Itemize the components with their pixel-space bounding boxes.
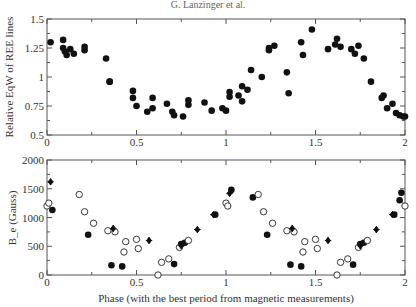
data-point	[350, 261, 357, 268]
data-point	[302, 238, 308, 244]
y-tick-label: 1	[39, 71, 45, 83]
data-point	[225, 203, 231, 209]
figure-title: G. Lanzinger et al.	[171, 0, 246, 10]
data-point	[106, 78, 113, 85]
data-point	[337, 44, 344, 51]
y-tick-label: 1.25	[25, 42, 45, 54]
data-point	[355, 42, 362, 49]
x-tick-label: 1	[223, 276, 229, 288]
data-point	[334, 272, 340, 278]
x-tick-label: 1.5	[309, 276, 323, 288]
data-point	[121, 249, 127, 255]
y-tick-label: 0.75	[25, 100, 45, 112]
data-point	[325, 237, 331, 243]
data-point	[149, 95, 156, 102]
bottom-plot-frame	[47, 160, 405, 275]
data-point	[248, 67, 255, 74]
y-tick-label: 0.5	[30, 129, 44, 141]
data-point	[133, 103, 140, 110]
data-point	[133, 236, 139, 242]
data-point	[373, 226, 379, 232]
data-point	[155, 272, 161, 278]
bottom-axis-ticks: 00.511.520500100015002000	[22, 154, 408, 288]
x-tick-label: 2	[402, 136, 408, 148]
data-point	[103, 55, 110, 62]
x-axis-label: Phase (with the best period from magneti…	[98, 292, 354, 305]
top-y-axis-label: Relative EqW of REE lines	[3, 17, 15, 138]
data-point	[60, 37, 67, 44]
data-point	[223, 107, 230, 114]
data-point	[287, 261, 294, 268]
data-point	[361, 55, 368, 62]
data-point	[271, 42, 278, 49]
data-point	[166, 256, 172, 262]
data-point	[235, 92, 242, 99]
y-tick-label: 1.5	[30, 13, 44, 25]
bottom-y-axis-label: B_e (Gauss)	[6, 190, 19, 245]
x-tick-label: 0	[44, 276, 50, 288]
data-point	[398, 189, 405, 196]
data-point	[85, 231, 92, 238]
data-point	[345, 256, 351, 262]
data-point	[298, 39, 305, 46]
data-point	[312, 236, 318, 242]
data-point	[194, 226, 200, 232]
data-point	[309, 26, 316, 33]
x-tick-label: 1	[223, 136, 229, 148]
data-point	[368, 78, 375, 85]
data-point	[402, 113, 409, 120]
data-point	[255, 191, 261, 197]
data-point	[264, 231, 271, 238]
data-point	[123, 238, 129, 244]
data-point	[63, 52, 70, 59]
data-point	[208, 107, 215, 114]
data-point	[171, 112, 178, 119]
data-point	[380, 92, 387, 99]
data-point	[284, 69, 291, 76]
data-point	[164, 100, 171, 107]
data-point	[76, 191, 82, 197]
x-tick-label: 2	[402, 276, 408, 288]
top-panel: 00.511.520.50.7511.251.5 Relative EqW of…	[3, 13, 408, 148]
y-tick-label: 0	[39, 269, 45, 281]
data-point	[130, 95, 137, 102]
data-point	[149, 105, 156, 112]
data-point	[81, 209, 87, 215]
data-point	[337, 259, 343, 265]
data-point	[146, 237, 152, 243]
top-axis-ticks: 00.511.520.50.7511.251.5	[25, 13, 408, 148]
data-point	[201, 99, 208, 106]
data-point	[389, 100, 396, 107]
top-plot-frame	[47, 19, 405, 135]
data-point	[364, 237, 370, 243]
data-point	[71, 51, 78, 58]
bottom-panel: 00.511.520500100015002000 B_e (Gauss) Ph…	[6, 154, 408, 305]
data-point	[352, 51, 359, 58]
data-point	[171, 261, 178, 268]
data-point	[260, 209, 266, 215]
data-point	[108, 262, 115, 269]
data-point	[119, 263, 126, 270]
data-point	[269, 220, 275, 226]
data-point	[285, 90, 292, 97]
data-point	[90, 220, 96, 226]
data-point	[185, 237, 191, 243]
data-point	[226, 89, 233, 96]
data-point	[396, 197, 403, 204]
x-tick-label: 0	[44, 136, 50, 148]
data-point	[298, 263, 305, 270]
data-point	[325, 46, 332, 53]
y-tick-label: 1500	[22, 183, 45, 195]
data-point	[314, 245, 320, 251]
data-point	[180, 113, 187, 120]
data-point	[402, 203, 408, 209]
data-point	[239, 98, 246, 105]
y-tick-label: 2000	[22, 154, 45, 166]
data-point	[47, 179, 53, 185]
data-point	[185, 102, 192, 109]
data-point	[334, 35, 341, 42]
data-point	[244, 86, 251, 93]
data-point	[135, 245, 141, 251]
data-point	[259, 74, 266, 81]
data-point	[384, 105, 391, 112]
